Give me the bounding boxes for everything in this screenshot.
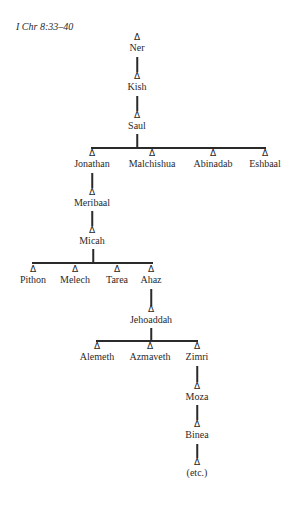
node-kish: Δ Kish (128, 71, 147, 93)
node-binea: Δ Binea (185, 419, 208, 441)
male-triangle-icon: Δ (185, 419, 208, 429)
male-triangle-icon: Δ (80, 341, 114, 351)
male-triangle-icon: Δ (130, 32, 145, 42)
node-moza: Δ Moza (186, 381, 209, 403)
node-label: Meribaal (74, 197, 110, 209)
male-triangle-icon: Δ (130, 304, 172, 314)
node-label: Alemeth (80, 351, 114, 363)
descent-line (136, 57, 138, 72)
descent-line (196, 366, 198, 382)
node-ahaz: Δ Ahaz (140, 264, 161, 286)
male-triangle-icon: Δ (74, 187, 110, 197)
descent-line (136, 96, 138, 111)
node-label: Abinadab (194, 158, 233, 170)
male-triangle-icon: Δ (128, 110, 146, 120)
descent-line (136, 134, 138, 147)
node-label: Kish (128, 81, 147, 93)
male-triangle-icon: Δ (20, 264, 46, 274)
male-triangle-icon: Δ (249, 148, 281, 158)
descent-line (196, 405, 198, 420)
node-label: Jehoaddah (130, 314, 172, 326)
node-melech: Δ Melech (60, 264, 90, 286)
male-triangle-icon: Δ (60, 264, 90, 274)
node-label: Jonathan (74, 158, 110, 170)
node-alemeth: Δ Alemeth (80, 341, 114, 363)
male-triangle-icon: Δ (194, 148, 233, 158)
node-label: Moza (186, 391, 209, 403)
node-pithon: Δ Pithon (20, 264, 46, 286)
node-abinadab: Δ Abinadab (194, 148, 233, 170)
node-label: Pithon (20, 274, 46, 286)
male-triangle-icon: Δ (129, 341, 170, 351)
sibling-bar (91, 147, 266, 149)
descent-line (91, 173, 93, 188)
node-jehoaddah: Δ Jehoaddah (130, 304, 172, 326)
node-label: Saul (128, 120, 146, 132)
node-meribaal: Δ Meribaal (74, 187, 110, 209)
male-triangle-icon: Δ (186, 341, 209, 351)
male-triangle-icon: Δ (187, 457, 208, 467)
male-triangle-icon: Δ (79, 225, 105, 235)
node-saul: Δ Saul (128, 110, 146, 132)
node-label: Malchishua (129, 158, 176, 170)
male-triangle-icon: Δ (128, 71, 147, 81)
node-eshbaal: Δ Eshbaal (249, 148, 281, 170)
node-micah: Δ Micah (79, 225, 105, 247)
node-label: Binea (185, 429, 208, 441)
sibling-bar (32, 262, 153, 264)
node-label: (etc.) (187, 467, 208, 479)
node-azmaveth: Δ Azmaveth (129, 341, 170, 363)
node-label: Micah (79, 235, 105, 247)
node-jonathan: Δ Jonathan (74, 148, 110, 170)
node-tarea: Δ Tarea (106, 264, 128, 286)
node-label: Melech (60, 274, 90, 286)
male-triangle-icon: Δ (74, 148, 110, 158)
descent-line (150, 328, 152, 340)
node-ner: Δ Ner (130, 32, 145, 54)
node-label: Azmaveth (129, 351, 170, 363)
descent-line (92, 249, 94, 262)
node-label: Ner (130, 42, 145, 54)
male-triangle-icon: Δ (129, 148, 176, 158)
node-label: Tarea (106, 274, 128, 286)
node-zimri: Δ Zimri (186, 341, 209, 363)
node-label: Zimri (186, 351, 209, 363)
node-label: Ahaz (140, 274, 161, 286)
descent-line (91, 211, 93, 226)
diagram-title: I Chr 8:33–40 (16, 21, 73, 32)
descent-line (196, 444, 198, 458)
male-triangle-icon: Δ (186, 381, 209, 391)
male-triangle-icon: Δ (140, 264, 161, 274)
node-etc: Δ (etc.) (187, 457, 208, 479)
male-triangle-icon: Δ (106, 264, 128, 274)
node-malchishua: Δ Malchishua (129, 148, 176, 170)
node-label: Eshbaal (249, 158, 281, 170)
